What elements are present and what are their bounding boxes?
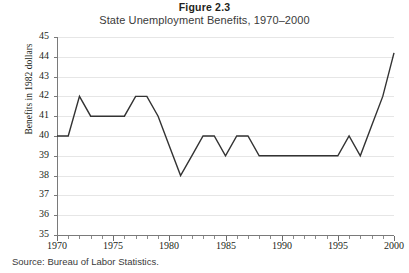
y-tick-label: 40: [5, 129, 49, 140]
y-tick-label: 44: [5, 50, 49, 61]
y-tick-label: 38: [5, 169, 49, 180]
x-tick-minor: [79, 236, 80, 239]
x-tick-label: 1995: [316, 240, 360, 251]
y-tick-label: 41: [5, 109, 49, 120]
source-note: Source: Bureau of Labor Statistics.: [12, 256, 159, 267]
x-tick-minor: [203, 236, 204, 239]
x-tick-minor: [293, 236, 294, 239]
x-tick-minor: [181, 236, 182, 239]
x-tick-minor: [383, 236, 384, 239]
x-tick-minor: [248, 236, 249, 239]
x-tick-minor: [259, 236, 260, 239]
x-tick-minor: [124, 236, 125, 239]
y-tick-label: 45: [5, 30, 49, 41]
y-tick-label: 36: [5, 208, 49, 219]
y-tick-label: 35: [5, 228, 49, 239]
x-tick-label: 1990: [260, 240, 304, 251]
y-tick-label: 37: [5, 188, 49, 199]
x-tick-minor: [349, 236, 350, 239]
plot-area: 3536373839404142434445 19701975198019851…: [57, 37, 394, 235]
x-tick-minor: [192, 236, 193, 239]
x-tick-minor: [214, 236, 215, 239]
figure-title: State Unemployment Benefits, 1970–2000: [0, 14, 409, 26]
x-tick-label: 1975: [91, 240, 135, 251]
x-tick-minor: [158, 236, 159, 239]
data-series-line: [57, 37, 394, 235]
figure-container: Figure 2.3 State Unemployment Benefits, …: [0, 0, 409, 273]
x-tick-label: 1970: [35, 240, 79, 251]
x-tick-minor: [147, 236, 148, 239]
x-tick-label: 1980: [147, 240, 191, 251]
x-tick-minor: [304, 236, 305, 239]
x-axis-line: [57, 235, 394, 236]
x-tick-minor: [372, 236, 373, 239]
x-tick-minor: [315, 236, 316, 239]
x-tick-minor: [68, 236, 69, 239]
y-tick-label: 42: [5, 89, 49, 100]
x-tick-label: 1985: [204, 240, 248, 251]
x-tick-label: 2000: [372, 240, 409, 251]
x-tick-minor: [360, 236, 361, 239]
x-tick-minor: [270, 236, 271, 239]
x-tick-minor: [102, 236, 103, 239]
x-tick-minor: [237, 236, 238, 239]
y-tick-label: 43: [5, 70, 49, 81]
x-tick-minor: [327, 236, 328, 239]
x-tick-minor: [136, 236, 137, 239]
figure-number: Figure 2.3: [0, 1, 409, 13]
y-tick-label: 39: [5, 149, 49, 160]
x-tick-minor: [91, 236, 92, 239]
